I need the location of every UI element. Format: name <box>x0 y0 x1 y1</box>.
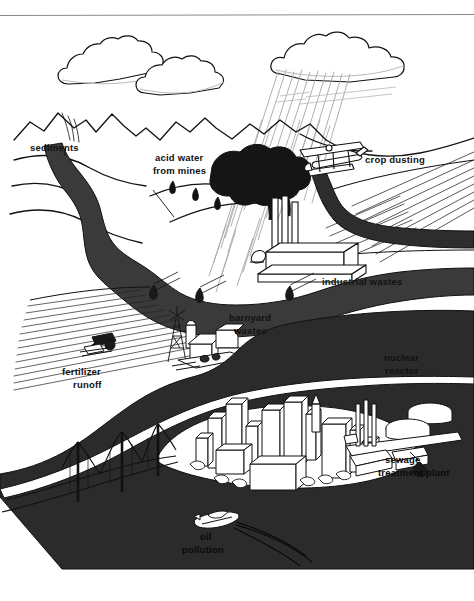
label-fertilizer-line1: fertilizer <box>62 366 101 379</box>
plant-base-top <box>258 265 366 274</box>
label-nuclear-line1: nuclear <box>384 352 419 365</box>
discharge-pipe-2 <box>196 275 226 302</box>
cloud-group <box>58 32 404 95</box>
plant-outbuilding <box>251 251 265 263</box>
livestock-1 <box>200 355 209 362</box>
label-sediments: sediments <box>30 142 79 155</box>
pollution-diagram: sediments acid water from mines crop dus… <box>0 0 474 601</box>
smoke-plume <box>210 144 310 205</box>
plane-cockpit <box>326 145 332 151</box>
label-barnyard-line1: barnyard <box>229 312 271 325</box>
livestock-2 <box>212 353 220 360</box>
diagram-canvas <box>0 0 474 601</box>
label-acid-water-line1: acid water <box>155 152 203 165</box>
label-acid-water-line2: from mines <box>153 165 206 178</box>
label-oil-line2: pollution <box>182 544 224 557</box>
crop-duster-airplane <box>300 142 368 176</box>
label-sewage-line1: sewage <box>385 454 421 467</box>
label-sewage-line2: treatment plant <box>378 467 450 480</box>
building-spire <box>312 394 320 432</box>
label-fertilizer-line2: runoff <box>73 379 102 392</box>
tractor <box>80 333 116 356</box>
sewage-stacks <box>356 400 376 446</box>
smoke-tail-b <box>268 196 271 220</box>
mountain-slope-c <box>10 210 142 243</box>
plant-body-top <box>266 243 358 252</box>
factory-smokestacks <box>272 196 298 250</box>
label-industrial-wastes: industrial wastes <box>322 276 402 289</box>
river-crop-branch <box>312 172 474 248</box>
top-rule <box>0 15 474 16</box>
sewage-small-building <box>344 434 358 444</box>
sediment-gully-2 <box>68 116 74 141</box>
label-oil-line1: oil <box>200 531 212 544</box>
label-nuclear-line2: reactor <box>385 365 419 378</box>
sediment-gully-3 <box>74 119 79 142</box>
leader-acid-water <box>153 190 174 217</box>
label-crop-dusting: crop dusting <box>365 154 425 167</box>
label-barnyard-line2: wastes <box>234 325 267 338</box>
cloud-right <box>271 32 404 82</box>
